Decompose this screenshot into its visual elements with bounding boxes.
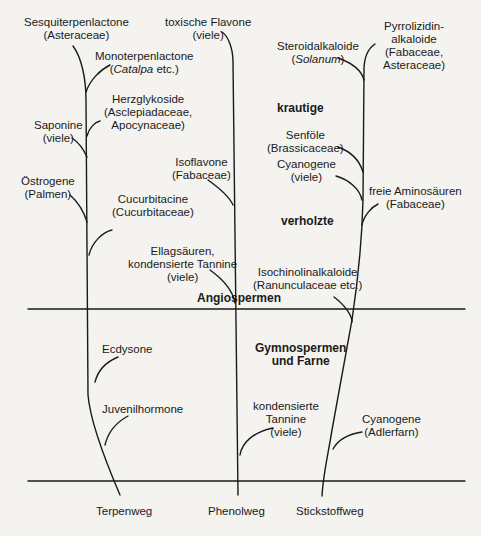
label-saponine: Saponine (viele)	[34, 119, 83, 145]
label-ellagsaeuren: Ellagsäuren, kondensierte Tannine (viele…	[128, 245, 237, 284]
zone-label-angiospermen: Angiospermen	[197, 292, 281, 305]
pathway-label-stickstoffweg: Stickstoffweg	[296, 505, 364, 518]
label-kondensierte-tannine: kondensierte Tannine (viele)	[253, 400, 319, 439]
branch-cyanogene-adlerfarn	[333, 432, 362, 449]
label-isoflavone: Isoflavone (Fabaceae)	[172, 156, 231, 182]
label-sesquiterpenlactone: Sesquiterpenlactone (Asteraceae)	[24, 16, 129, 42]
label-cyanogene-adlerfarn: Cyanogene (Adlerfarn)	[362, 413, 421, 439]
label-herzglykoside: Herzglykoside (Asclepiadaceae, Apocynace…	[104, 93, 192, 132]
label-isochinolinalkaloide: Isochinolinalkaloide (Ranunculaceae etc.…	[253, 266, 362, 292]
label-cucurbitacine: Cucurbitacine (Cucurbitaceae)	[112, 193, 194, 219]
label-oestrogene: Östrogene (Palmen)	[21, 175, 75, 201]
label-cyanogene-viele: Cyanogene (viele)	[277, 158, 336, 184]
branch-cucurbitacine	[89, 230, 112, 255]
pathway-label-terpenweg: Terpenweg	[96, 505, 152, 518]
label-pyrrolizidinalkaloide: Pyrrolizidin- alkaloide (Fabaceae, Aster…	[383, 20, 445, 72]
label-freie-aminosaeuren: freie Aminosäuren (Fabaceae)	[369, 185, 462, 211]
label-steroidalkaloide: Steroidalkaloide (Solanum)	[277, 40, 359, 66]
zone-label-krautige: krautige	[277, 102, 324, 115]
label-toxische-flavone: toxische Flavone (viele)	[165, 16, 251, 42]
branch-ecdysone	[95, 357, 118, 382]
zone-label-gymnospermen: Gymnospermen und Farne	[255, 342, 346, 368]
branch-juvenilhormone	[105, 416, 128, 445]
branch-isoflavone	[208, 180, 233, 205]
label-senfoele: Senföle (Brassicaceae)	[267, 129, 344, 155]
label-juvenilhormone: Juvenilhormone	[102, 403, 183, 416]
branch-herzglykoside	[87, 121, 100, 136]
label-monoterpenlactone: Monoterpenlactone (Catalpa etc.)	[95, 50, 193, 76]
label-ecdysone: Ecdysone	[102, 343, 153, 356]
branch-cyanogene-viele	[336, 176, 362, 200]
pathway-label-phenolweg: Phenolweg	[208, 505, 265, 518]
zone-label-verholzte: verholzte	[281, 215, 334, 228]
evolution-pathway-diagram	[0, 0, 481, 536]
